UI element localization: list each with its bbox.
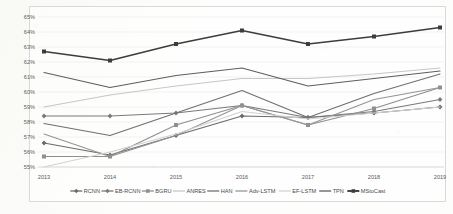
legend-label-bgru: BGRU <box>155 188 171 194</box>
series-lines <box>42 26 443 168</box>
x-axis-tick-label: 2014 <box>104 174 116 180</box>
legend-item-mstocast[interactable]: MStoCast <box>347 188 386 194</box>
legend-label-han: HAN <box>221 188 233 194</box>
legend-label-tpn: TPN <box>333 188 344 194</box>
y-axis-tick-label: 58% <box>24 119 35 125</box>
legend-item-anres[interactable]: ANRES <box>173 188 206 194</box>
legend-marker-eb-rcnn <box>105 189 109 193</box>
series-marker-bgru <box>372 107 376 111</box>
series-marker-eb-rcnn <box>108 114 113 119</box>
legend-label-mstocast: MStoCast <box>361 188 386 194</box>
series-line-tpn <box>44 68 440 88</box>
chart-page: 55%56%57%58%59%60%61%62%63%64%65% 201320… <box>0 0 453 214</box>
y-axis-tick-label: 56% <box>24 149 35 155</box>
series-marker-mstocast <box>240 29 244 33</box>
y-axis-tick-label: 65% <box>24 14 35 20</box>
legend-item-bgru[interactable]: BGRU <box>142 188 172 194</box>
y-axis-tick-label: 57% <box>24 134 35 140</box>
series-marker-mstocast <box>306 42 310 46</box>
x-axis-tick-label: 2019 <box>434 174 446 180</box>
legend-label-ef-lstm: EF-LSTM <box>292 188 316 194</box>
legend-marker-bgru <box>146 189 150 193</box>
series-marker-mstocast <box>174 42 178 46</box>
y-axis-tick-label: 55% <box>24 164 35 170</box>
series-marker-eb-rcnn <box>438 97 443 102</box>
line-chart: 55%56%57%58%59%60%61%62%63%64%65% 201320… <box>0 0 453 214</box>
legend-label-rcnn: RCNN <box>84 188 100 194</box>
legend-label-adv-lstm: Adv-LSTM <box>249 188 276 194</box>
legend-item-eb-rcnn[interactable]: EB-RCNN <box>101 188 140 194</box>
x-axis-tick-label: 2015 <box>170 174 182 180</box>
series-marker-bgru <box>174 123 178 127</box>
series-marker-eb-rcnn <box>42 114 47 119</box>
series-line-anres <box>44 68 440 107</box>
series-marker-rcnn <box>240 114 245 119</box>
series-marker-mstocast <box>42 50 46 54</box>
legend-item-adv-lstm[interactable]: Adv-LSTM <box>235 188 275 194</box>
x-axis-tick-label: 2018 <box>368 174 380 180</box>
x-axis-tick-label: 2016 <box>236 174 248 180</box>
y-axis-tick-label: 64% <box>24 29 35 35</box>
series-marker-mstocast <box>372 35 376 39</box>
x-axis-tick-label: 2013 <box>38 174 50 180</box>
legend-item-han[interactable]: HAN <box>207 188 232 194</box>
legend-item-ef-lstm[interactable]: EF-LSTM <box>279 188 317 194</box>
legend-item-rcnn[interactable]: RCNN <box>70 188 100 194</box>
chart-legend: RCNNEB-RCNNBGRUANRESHANAdv-LSTMEF-LSTMTP… <box>70 188 386 194</box>
legend-label-eb-rcnn: EB-RCNN <box>115 188 140 194</box>
legend-label-anres: ANRES <box>187 188 207 194</box>
legend-marker-mstocast <box>352 189 356 193</box>
legend-item-tpn[interactable]: TPN <box>319 188 344 194</box>
legend-marker-rcnn <box>74 189 78 193</box>
y-axis-tick-label: 63% <box>24 44 35 50</box>
series-marker-mstocast <box>438 26 442 30</box>
x-axis-tick-label: 2017 <box>302 174 314 180</box>
series-marker-rcnn <box>42 141 47 146</box>
y-axis-tick-label: 60% <box>24 89 35 95</box>
y-axis-tick-label: 61% <box>24 74 35 80</box>
grid-lines <box>38 17 444 167</box>
y-axis-tick-label: 62% <box>24 59 35 65</box>
x-axis-tick-labels: 2013201420152016201720182019 <box>38 174 446 180</box>
y-axis-tick-label: 59% <box>24 104 35 110</box>
series-marker-bgru <box>42 155 46 159</box>
series-marker-mstocast <box>108 59 112 63</box>
y-axis-tick-labels: 55%56%57%58%59%60%61%62%63%64%65% <box>24 14 35 170</box>
